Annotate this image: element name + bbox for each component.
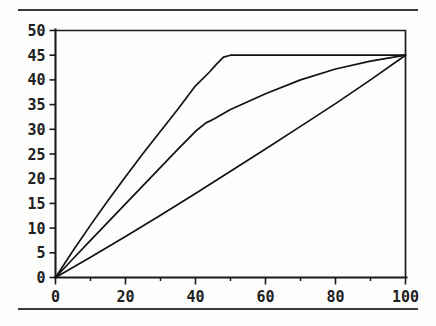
axes-frame bbox=[56, 30, 407, 278]
y-axis-tick-label: 35 bbox=[27, 96, 45, 114]
x-axis-tick-label: 0 bbox=[51, 288, 60, 306]
x-axis-tick-label: 80 bbox=[326, 288, 344, 306]
data-series-group bbox=[56, 55, 406, 277]
x-axis-tick-label: 60 bbox=[256, 288, 274, 306]
y-axis-tick-label: 15 bbox=[27, 195, 45, 213]
x-axis-tick-label: 40 bbox=[186, 288, 204, 306]
x-axis-tick-label: 100 bbox=[392, 288, 419, 306]
series-middle-curve bbox=[56, 55, 406, 277]
plot-frame-top-right bbox=[56, 31, 406, 278]
y-axis-tick-label: 40 bbox=[27, 71, 45, 89]
y-axis-tick-label: 10 bbox=[27, 220, 45, 238]
x-axis-tick-label: 20 bbox=[116, 288, 134, 306]
y-axis-tick-label: 25 bbox=[27, 146, 45, 164]
y-axis-tick-label: 5 bbox=[36, 244, 45, 262]
line-chart-plot: 05101520253035404550020406080100 bbox=[0, 0, 436, 326]
chart-figure: 05101520253035404550020406080100 bbox=[0, 0, 436, 326]
y-axis-tick-label: 20 bbox=[27, 170, 45, 188]
axis-ticks bbox=[50, 31, 406, 285]
y-axis-tick-label: 45 bbox=[27, 47, 45, 65]
y-axis-tick-label: 30 bbox=[27, 121, 45, 139]
series-lower-curve bbox=[56, 55, 406, 277]
axis-tick-labels: 05101520253035404550020406080100 bbox=[27, 22, 419, 306]
y-axis-tick-label: 50 bbox=[27, 22, 45, 40]
series-upper-curve bbox=[56, 55, 406, 277]
y-axis-tick-label: 0 bbox=[36, 269, 45, 287]
